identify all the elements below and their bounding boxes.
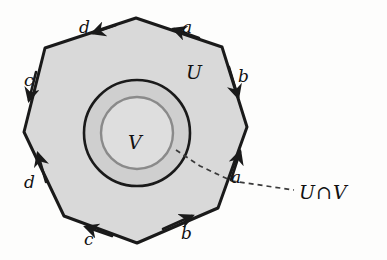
- edge-label-b-right: b: [238, 68, 249, 85]
- edge-label-b-bottom: b: [181, 225, 192, 242]
- edge-label-c-left: c: [24, 72, 34, 89]
- edge-label-d-top: d: [79, 19, 90, 36]
- figure-canvas: a b a b c d c d U V U∩V: [0, 0, 387, 260]
- region-label-u: U: [186, 63, 202, 82]
- intersection-operator-icon: ∩: [315, 181, 333, 203]
- topology-figure: [0, 0, 387, 260]
- edge-label-a-lower: a: [231, 169, 241, 186]
- callout-right-operand: V: [333, 181, 347, 203]
- region-label-v: V: [128, 133, 142, 152]
- callout-label-u-cap-v: U∩V: [299, 183, 347, 202]
- edge-label-d-lower: d: [24, 174, 35, 191]
- callout-left-operand: U: [299, 181, 315, 203]
- edge-label-a-top: a: [182, 19, 192, 36]
- edge-label-c-bottom: c: [84, 231, 94, 248]
